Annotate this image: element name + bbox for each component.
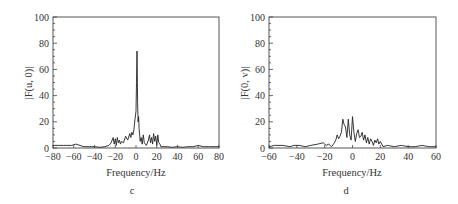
y-tick-label: 100 <box>250 12 265 23</box>
chart-panel-c: 020406080100 −80−60−40−20020406080 |F(u,… <box>23 12 224 197</box>
y-tick-labels: 020406080100 <box>34 12 49 154</box>
ticks <box>53 17 219 148</box>
x-tick-label: −60 <box>66 151 82 162</box>
x-tick-label: 80 <box>214 151 224 162</box>
x-tick-label: −80 <box>45 151 61 162</box>
data-line <box>53 51 219 147</box>
y-tick-label: 40 <box>39 90 49 101</box>
x-tick-label: 0 <box>350 151 355 162</box>
data-line <box>269 117 436 147</box>
x-tick-label: 60 <box>193 151 203 162</box>
x-tick-label: 40 <box>173 151 183 162</box>
figure: 020406080100 −80−60−40−20020406080 |F(u,… <box>0 0 458 204</box>
panel-label: d <box>343 185 349 196</box>
x-tick-label: −20 <box>107 151 123 162</box>
x-axis-title: Frequency/Hz <box>322 167 382 178</box>
x-tick-label: 20 <box>152 151 162 162</box>
ticks <box>269 17 436 148</box>
chart-panel-d: 020406080100 −60−40−200204060 |F(0, v)| … <box>239 12 441 197</box>
y-tick-label: 80 <box>255 38 265 49</box>
x-tick-label: 20 <box>375 151 385 162</box>
plot-frame <box>53 17 219 148</box>
x-tick-label: 40 <box>403 151 413 162</box>
y-axis-title: |F(0, v)| <box>239 67 251 100</box>
x-tick-labels: −60−40−200204060 <box>261 151 441 162</box>
x-tick-label: −20 <box>317 151 333 162</box>
y-tick-label: 40 <box>255 90 265 101</box>
x-tick-label: −60 <box>261 151 277 162</box>
y-tick-label: 60 <box>39 64 49 75</box>
y-axis-title: |F(u, 0)| <box>23 67 35 100</box>
y-tick-label: 80 <box>39 38 49 49</box>
plot-frame <box>269 17 436 148</box>
panel-label: c <box>130 185 135 196</box>
y-tick-label: 20 <box>39 116 49 127</box>
x-tick-label: 0 <box>134 151 139 162</box>
y-tick-label: 100 <box>34 12 49 23</box>
x-tick-label: −40 <box>87 151 103 162</box>
x-axis-title: Frequency/Hz <box>106 167 166 178</box>
y-tick-label: 60 <box>255 64 265 75</box>
y-tick-label: 20 <box>255 116 265 127</box>
x-tick-label: 60 <box>431 151 441 162</box>
y-tick-labels: 020406080100 <box>250 12 265 154</box>
x-tick-label: −40 <box>289 151 305 162</box>
x-tick-labels: −80−60−40−20020406080 <box>45 151 224 162</box>
